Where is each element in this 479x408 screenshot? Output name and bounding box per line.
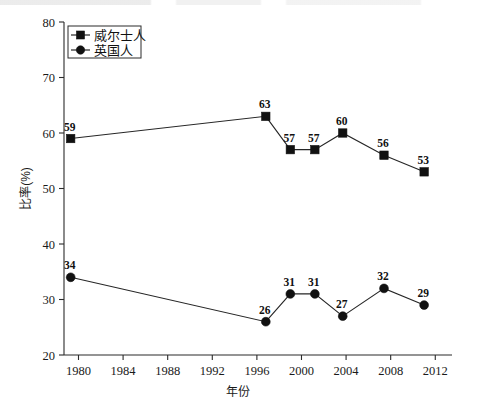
y-tick-label-30: 30 [43,293,56,307]
data-point-1-0[interactable] [66,273,75,282]
data-label-0-6: 53 [417,154,429,166]
data-point-1-5[interactable] [380,284,389,293]
data-label-1-3: 31 [308,276,320,288]
x-tick-label-1988: 1988 [155,364,180,378]
data-point-1-2[interactable] [286,290,295,299]
data-label-1-0: 34 [64,259,76,271]
data-label-0-0: 59 [64,121,76,133]
y-tick-label-70: 70 [43,71,56,85]
data-label-0-1: 63 [259,98,271,110]
data-point-0-0[interactable] [66,134,74,142]
y-tick-label-60: 60 [43,127,56,141]
data-point-0-1[interactable] [262,112,270,120]
x-axis-title: 年份 [226,385,250,399]
legend-marker-square-icon [77,31,85,39]
data-point-1-6[interactable] [420,301,429,310]
legend-label-1: 英国人 [94,43,133,58]
y-tick-label-20: 20 [43,349,56,363]
legend-label-0: 威尔士人 [94,28,146,43]
data-label-1-4: 27 [336,298,348,310]
line-chart: 2030405060708019801984198819921996200020… [0,0,479,408]
x-tick-label-2004: 2004 [334,364,360,378]
data-point-0-5[interactable] [380,151,388,159]
data-point-1-4[interactable] [338,312,347,321]
data-point-0-6[interactable] [420,168,428,176]
data-label-1-2: 31 [284,276,296,288]
x-tick-label-2012: 2012 [423,364,448,378]
data-label-0-4: 60 [336,115,348,127]
x-tick-label-2008: 2008 [378,364,403,378]
data-label-1-5: 32 [377,270,389,282]
data-point-0-4[interactable] [339,129,347,137]
legend-marker-circle-icon [76,46,84,54]
data-label-0-3: 57 [308,132,320,144]
x-tick-label-2000: 2000 [289,364,314,378]
x-tick-label-1984: 1984 [111,364,137,378]
series-line-0 [71,116,424,172]
data-label-1-1: 26 [259,304,271,316]
data-point-1-1[interactable] [261,317,270,326]
series-line-1 [71,277,424,321]
x-tick-label-1980: 1980 [66,364,91,378]
y-tick-label-50: 50 [43,182,56,196]
x-tick-label-1992: 1992 [200,364,225,378]
data-point-0-3[interactable] [311,145,319,153]
data-point-1-3[interactable] [310,290,319,299]
x-tick-label-1996: 1996 [244,364,269,378]
data-label-0-5: 56 [377,137,389,149]
y-tick-label-80: 80 [43,16,56,30]
data-label-0-2: 57 [284,132,296,144]
y-tick-label-40: 40 [43,238,56,252]
y-axis-title: 比率(%) [18,167,33,210]
data-point-0-2[interactable] [286,145,294,153]
chart-canvas: 2030405060708019801984198819921996200020… [0,0,479,408]
data-label-1-6: 29 [417,287,429,299]
